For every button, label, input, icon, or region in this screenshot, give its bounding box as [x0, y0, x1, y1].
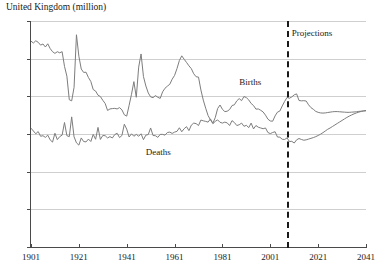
x-tick-label: 1961: [155, 252, 195, 262]
y-tick-mark: [27, 59, 31, 60]
x-tick-label: 1901: [11, 252, 51, 262]
x-tick-label: 1921: [59, 252, 99, 262]
plot-area: [31, 21, 366, 247]
x-tick-label: 2001: [250, 252, 290, 262]
x-tick-label: 2021: [298, 252, 338, 262]
y-tick-mark: [27, 134, 31, 135]
x-axis: [31, 247, 367, 248]
x-tick-label: 2041: [346, 252, 379, 262]
annotation-deaths: Deaths: [146, 147, 171, 157]
x-tick-mark: [175, 244, 176, 248]
series-lines: [31, 21, 366, 247]
y-tick-mark: [27, 96, 31, 97]
x-tick-label: 1981: [202, 252, 242, 262]
series-line-births: [31, 35, 366, 124]
chart-title: United Kingdom (million): [6, 2, 106, 12]
projection-divider-line: [287, 21, 289, 248]
x-tick-mark: [318, 244, 319, 248]
series-line-deaths: [31, 110, 366, 145]
x-tick-mark: [31, 244, 32, 248]
x-tick-mark: [79, 244, 80, 248]
y-tick-mark: [27, 172, 31, 173]
x-tick-mark: [366, 244, 367, 248]
annotation-births: Births: [239, 77, 261, 87]
x-tick-mark: [127, 244, 128, 248]
annotation-projections: Projections: [292, 28, 333, 38]
x-tick-mark: [270, 244, 271, 248]
y-tick-mark: [27, 21, 31, 22]
x-tick-mark: [222, 244, 223, 248]
x-tick-label: 1941: [107, 252, 147, 262]
y-tick-mark: [27, 209, 31, 210]
